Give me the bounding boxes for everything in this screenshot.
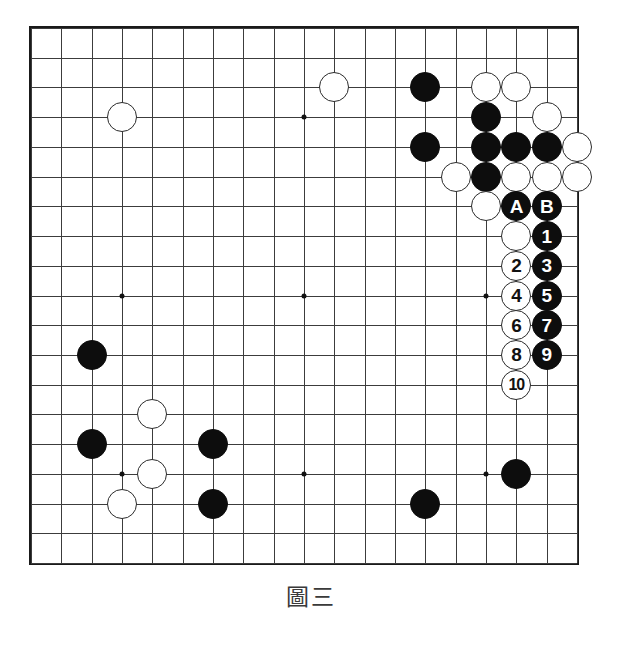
grid-line-vertical <box>577 28 578 563</box>
stone-white[interactable] <box>532 162 562 192</box>
stone-black[interactable] <box>410 489 440 519</box>
stone-label: 7 <box>542 316 552 335</box>
stone-white[interactable] <box>107 102 137 132</box>
stone-black[interactable] <box>471 102 501 132</box>
stone-label: 6 <box>511 316 521 335</box>
grid-line-vertical <box>334 28 335 563</box>
stone-label: 4 <box>511 286 521 305</box>
stone-black[interactable] <box>77 340 107 370</box>
stone-white[interactable] <box>562 162 592 192</box>
grid-line-vertical <box>365 28 366 563</box>
grid-line-vertical <box>395 28 396 563</box>
go-board[interactable]: AB12345678910 <box>31 28 577 563</box>
stone-black[interactable] <box>501 132 531 162</box>
stone-black[interactable] <box>471 162 501 192</box>
stone-black[interactable] <box>198 429 228 459</box>
stone-white[interactable] <box>137 459 167 489</box>
grid-line-vertical <box>31 28 32 563</box>
star-point <box>302 115 307 120</box>
grid-line-vertical <box>243 28 244 563</box>
grid-line-vertical <box>274 28 275 563</box>
stone-label: 8 <box>511 345 521 364</box>
stone-black-labeled-b[interactable]: B <box>532 191 562 221</box>
stone-black[interactable] <box>501 459 531 489</box>
stone-label: 2 <box>511 256 521 275</box>
stone-label: 5 <box>542 286 552 305</box>
stone-black[interactable] <box>532 132 562 162</box>
stone-black-labeled-7[interactable]: 7 <box>532 310 562 340</box>
grid-line-vertical <box>183 28 184 563</box>
stone-black[interactable] <box>198 489 228 519</box>
star-point <box>484 471 489 476</box>
stone-label: 9 <box>542 345 552 364</box>
stone-white-labeled-2[interactable]: 2 <box>501 251 531 281</box>
grid-line-vertical <box>425 28 426 563</box>
star-point <box>302 293 307 298</box>
star-point <box>302 471 307 476</box>
go-diagram-figure: AB12345678910 圖三 <box>0 0 621 664</box>
stone-black[interactable] <box>471 132 501 162</box>
star-point <box>120 293 125 298</box>
stone-white-labeled-4[interactable]: 4 <box>501 281 531 311</box>
stone-black-labeled-1[interactable]: 1 <box>532 221 562 251</box>
stone-black[interactable] <box>77 429 107 459</box>
stone-label: A <box>510 197 523 216</box>
stone-white[interactable] <box>441 162 471 192</box>
stone-black[interactable] <box>410 132 440 162</box>
figure-caption: 圖三 <box>0 578 621 612</box>
grid-line-vertical <box>92 28 93 563</box>
grid-line-vertical <box>213 28 214 563</box>
grid-line-vertical <box>61 28 62 563</box>
stone-label: B <box>540 197 553 216</box>
grid-line-vertical <box>456 28 457 563</box>
stone-label: 1 <box>542 227 552 246</box>
stone-label: 3 <box>542 256 552 275</box>
stone-white[interactable] <box>501 162 531 192</box>
stone-label: 10 <box>508 377 524 393</box>
star-point <box>120 471 125 476</box>
stone-black-labeled-5[interactable]: 5 <box>532 281 562 311</box>
stone-black-labeled-3[interactable]: 3 <box>532 251 562 281</box>
stone-white-labeled-10[interactable]: 10 <box>501 370 531 400</box>
stone-white[interactable] <box>562 132 592 162</box>
star-point <box>484 293 489 298</box>
grid-line-horizontal <box>31 563 577 564</box>
stone-white[interactable] <box>532 102 562 132</box>
stone-white[interactable] <box>107 489 137 519</box>
stone-black-labeled-9[interactable]: 9 <box>532 340 562 370</box>
